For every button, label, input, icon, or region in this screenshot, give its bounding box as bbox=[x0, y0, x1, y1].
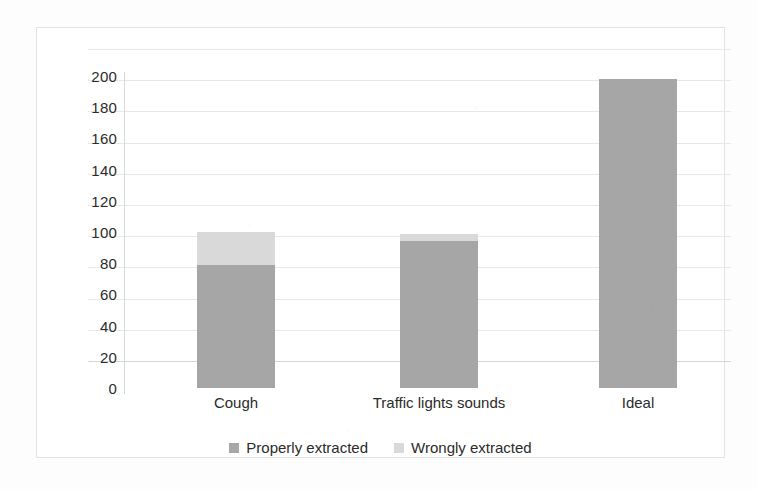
chart-frame: 200180160140120100806040200 CoughTraffic… bbox=[36, 27, 725, 458]
x-tick-label-traffic-lights-sounds: Traffic lights sounds bbox=[373, 394, 506, 411]
y-tick-label-100: 100 bbox=[73, 224, 117, 241]
legend-swatch-icon bbox=[394, 443, 404, 453]
legend-item-wrongly-extracted[interactable]: Wrongly extracted bbox=[394, 439, 532, 456]
y-tick-label-20: 20 bbox=[73, 348, 117, 365]
y-tick-label-40: 40 bbox=[73, 317, 117, 334]
legend-swatch-icon bbox=[229, 443, 239, 453]
bar-segment-properly-extracted[interactable] bbox=[599, 79, 677, 388]
scanned-figure-page: 200180160140120100806040200 CoughTraffic… bbox=[0, 0, 757, 489]
bar-ideal[interactable] bbox=[599, 79, 677, 388]
x-tick-label-cough: Cough bbox=[214, 394, 258, 411]
gridline-200 bbox=[88, 49, 731, 50]
bar-traffic-lights-sounds[interactable] bbox=[400, 234, 478, 388]
y-tick-label-120: 120 bbox=[73, 192, 117, 209]
y-tick-label-140: 140 bbox=[73, 161, 117, 178]
y-tick-label-60: 60 bbox=[73, 286, 117, 303]
chart-legend: Properly extractedWrongly extracted bbox=[37, 439, 724, 456]
legend-label: Wrongly extracted bbox=[411, 439, 532, 456]
legend-label: Properly extracted bbox=[246, 439, 368, 456]
bar-segment-properly-extracted[interactable] bbox=[400, 241, 478, 388]
y-tick-label-0: 0 bbox=[73, 380, 117, 397]
y-tick-label-80: 80 bbox=[73, 255, 117, 272]
plot-area bbox=[125, 76, 733, 388]
x-tick-label-ideal: Ideal bbox=[622, 394, 655, 411]
bar-segment-wrongly-extracted[interactable] bbox=[400, 234, 478, 242]
legend-item-properly-extracted[interactable]: Properly extracted bbox=[229, 439, 368, 456]
bar-cough[interactable] bbox=[197, 232, 275, 388]
y-axis-tick-labels: 200180160140120100806040200 bbox=[65, 76, 117, 388]
bar-segment-properly-extracted[interactable] bbox=[197, 265, 275, 388]
x-axis-tick-labels: CoughTraffic lights soundsIdeal bbox=[125, 394, 733, 420]
y-tick-label-160: 160 bbox=[73, 130, 117, 147]
y-tick-label-180: 180 bbox=[73, 99, 117, 116]
bar-segment-wrongly-extracted[interactable] bbox=[197, 232, 275, 265]
y-tick-label-200: 200 bbox=[73, 68, 117, 85]
